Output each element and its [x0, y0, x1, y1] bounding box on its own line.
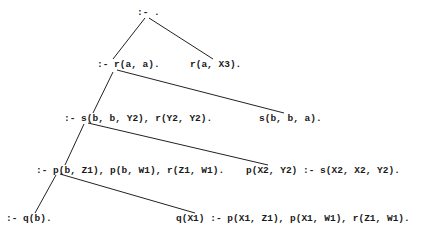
tree-edge	[35, 175, 56, 213]
tree-node-goal-p-p-r: :- p(b, Z1), p(b, W1), r(Z1, W1).	[36, 166, 224, 176]
tree-node-goal-q-b: :- q(b).	[6, 214, 52, 224]
tree-node-root: :- .	[137, 8, 160, 18]
tree-edge	[113, 18, 145, 59]
tree-node-rule-p: p(X2, Y2) :- s(X2, X2, Y2).	[246, 166, 400, 176]
tree-node-fact-r-a-x3: r(a, X3).	[190, 60, 241, 70]
tree-edge	[117, 70, 284, 113]
tree-edge	[93, 72, 113, 113]
tree-node-goal-r-a-a: :- r(a, a).	[97, 60, 160, 70]
tree-edge	[65, 124, 84, 165]
tree-edge	[88, 123, 268, 165]
tree-node-goal-s-r: :- s(b, b, Y2), r(Y2, Y2).	[64, 114, 212, 124]
resolution-tree: :- . :- r(a, a). r(a, X3). :- s(b, b, Y2…	[0, 0, 425, 239]
tree-edge	[149, 18, 213, 59]
tree-node-rule-q: q(X1) :- p(X1, Z1), p(X1, W1), r(Z1, W1)…	[176, 214, 410, 224]
tree-node-fact-s-b-b-a: s(b, b, a).	[259, 114, 322, 124]
tree-edge	[60, 174, 195, 213]
